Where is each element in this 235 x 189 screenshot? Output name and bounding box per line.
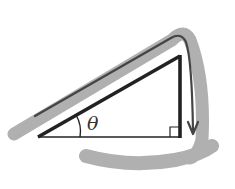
- hypotenuse: [38, 56, 180, 137]
- diagram-canvas: θ: [0, 0, 235, 189]
- brush-bottom-stroke: [86, 146, 212, 163]
- triangle: [38, 55, 180, 138]
- path-arrow: [35, 36, 198, 134]
- brush-strokes: [14, 34, 212, 163]
- angle-arc: [76, 115, 81, 137]
- right-triangle-diagram: θ: [0, 0, 235, 189]
- angle-label-theta: θ: [87, 112, 99, 134]
